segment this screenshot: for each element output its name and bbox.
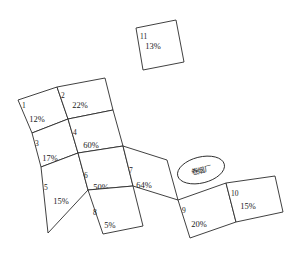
parcel-8[interactable]: 85% bbox=[88, 186, 143, 234]
parcel-id-label-5: 5 bbox=[44, 183, 48, 192]
factory-ellipse-label: 卷烟厂 bbox=[190, 162, 214, 177]
parcel-id-label-1: 1 bbox=[22, 101, 26, 110]
parcel-percent-label-5: 15% bbox=[53, 196, 69, 206]
parcel-percent-label-8: 5% bbox=[104, 220, 115, 230]
parcel-id-label-10: 10 bbox=[231, 189, 239, 198]
annotation-layer: 卷烟厂 bbox=[175, 152, 228, 189]
parcel-9[interactable]: 920% bbox=[178, 183, 236, 238]
parcel-percent-label-2: 22% bbox=[72, 100, 88, 110]
parcel-id-label-4: 4 bbox=[73, 128, 77, 137]
parcel-percent-label-9: 20% bbox=[191, 219, 207, 229]
parcel-percent-label-10: 15% bbox=[240, 201, 256, 211]
parcel-shape-9[interactable] bbox=[178, 183, 236, 238]
parcel-id-label-11: 11 bbox=[140, 32, 147, 41]
parcel-layer: 112%222%317%460%515%650%764%85%920%1015%… bbox=[18, 20, 283, 238]
parcel-id-label-7: 7 bbox=[129, 166, 133, 175]
parcel-map-container: 112%222%317%460%515%650%764%85%920%1015%… bbox=[0, 0, 298, 279]
parcel-id-label-2: 2 bbox=[61, 91, 65, 100]
parcel-10[interactable]: 1015% bbox=[226, 176, 283, 222]
parcel-percent-label-4: 60% bbox=[83, 140, 99, 150]
parcel-map: 112%222%317%460%515%650%764%85%920%1015%… bbox=[0, 0, 298, 279]
parcel-id-label-6: 6 bbox=[84, 171, 88, 180]
parcel-id-label-8: 8 bbox=[93, 208, 97, 217]
factory-ellipse[interactable]: 卷烟厂 bbox=[175, 152, 228, 189]
parcel-percent-label-7: 64% bbox=[136, 180, 152, 190]
parcel-11[interactable]: 1113% bbox=[136, 20, 184, 70]
parcel-id-label-3: 3 bbox=[35, 139, 39, 148]
parcel-percent-label-1: 12% bbox=[29, 114, 45, 124]
parcel-percent-label-11: 13% bbox=[145, 41, 161, 51]
parcel-shape-10[interactable] bbox=[226, 176, 283, 222]
parcel-id-label-9: 9 bbox=[182, 206, 186, 215]
